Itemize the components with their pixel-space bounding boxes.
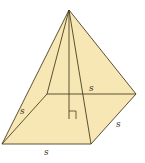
label-front-edge: s	[44, 147, 49, 157]
pyramid-diagram: s s s s	[0, 0, 145, 163]
label-right-edge: s	[116, 119, 121, 129]
label-left-edge: s	[20, 106, 25, 116]
label-back-edge: s	[89, 83, 94, 93]
pyramid-svg: s s s s	[0, 0, 145, 163]
